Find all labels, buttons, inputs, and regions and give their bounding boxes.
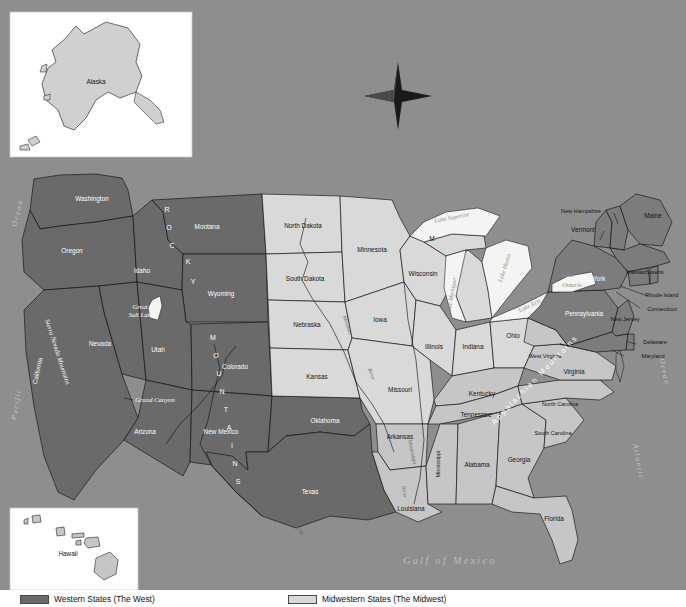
svg-text:M: M [210, 334, 216, 341]
label-arkansas: Arkansas [387, 433, 414, 440]
hawaii-lanai [76, 540, 81, 545]
legend-swatch-midwest [288, 595, 317, 604]
label-kansas: Kansas [306, 373, 327, 380]
svg-text:K: K [186, 258, 191, 265]
map-legend: Western States (The West) Midwestern Sta… [0, 590, 686, 607]
label-colorado: Colorado [222, 363, 248, 370]
label-lake-ontario-line1: Lake [561, 271, 574, 278]
svg-text:T: T [224, 406, 229, 413]
hawaii-kauai [32, 515, 41, 523]
label-oklahoma: Oklahoma [310, 417, 340, 424]
label-oregon: Oregon [61, 247, 83, 255]
svg-text:O: O [166, 224, 172, 231]
legend-item-midwest[interactable]: Midwestern States (The Midwest) [288, 594, 446, 604]
label-massachusetts: Massachusetts [626, 269, 664, 275]
label-texas: Texas [302, 488, 319, 495]
us-map: Washington Oregon California Nevada Idah… [0, 0, 686, 607]
label-nebraska: Nebraska [293, 321, 321, 328]
label-georgia: Georgia [508, 456, 531, 464]
label-alabama: Alabama [464, 461, 490, 468]
label-ohio: Ohio [506, 332, 520, 339]
label-south-dakota: South Dakota [286, 275, 325, 282]
label-louisiana: Louisiana [397, 505, 425, 512]
label-iowa: Iowa [373, 316, 387, 323]
label-wyoming: Wyoming [208, 290, 235, 298]
label-gulf-of-mexico: Gulf of Mexico [403, 555, 497, 566]
label-alaska: Alaska [86, 78, 106, 85]
state-shape-colorado[interactable] [191, 322, 272, 396]
label-great-salt-lake-line2: Salt Lake [129, 311, 154, 318]
label-great-salt-lake-line1: Great [132, 303, 147, 310]
label-delaware: Delaware [643, 339, 667, 345]
label-indiana: Indiana [463, 343, 484, 350]
label-north-dakota: North Dakota [284, 222, 322, 229]
svg-text:A: A [227, 424, 232, 431]
label-florida: Florida [544, 515, 564, 522]
legend-label-west: Western States (The West) [54, 594, 155, 604]
label-wisconsin: Wisconsin [408, 270, 438, 277]
label-south-carolina: South Carolina [534, 430, 572, 436]
legend-item-west[interactable]: Western States (The West) [20, 594, 155, 604]
label-vermont: Vermont [571, 226, 595, 233]
svg-text:N: N [232, 460, 237, 467]
legend-swatch-west [20, 595, 49, 604]
label-washington: Washington [75, 195, 109, 203]
label-north-carolina: North Carolina [542, 401, 579, 407]
label-utah: Utah [151, 346, 165, 353]
label-idaho: Idaho [134, 267, 150, 274]
map-canvas: Washington Oregon California Nevada Idah… [0, 0, 686, 590]
label-rhode-island: Rhode Island [646, 292, 679, 298]
label-virginia: Virginia [563, 368, 585, 376]
hawaii-maui [84, 537, 100, 548]
label-nevada: Nevada [89, 340, 111, 347]
label-tennessee: Tennessee [461, 411, 492, 418]
label-mississippi: Mississippi [435, 450, 441, 477]
inset-alaska[interactable]: Alaska [10, 12, 192, 157]
label-maine: Maine [644, 212, 662, 219]
label-missouri: Missouri [388, 386, 412, 393]
label-pennsylvania: Pennsylvania [565, 310, 603, 318]
label-new-jersey: New Jersey [610, 316, 639, 322]
label-kentucky: Kentucky [469, 390, 496, 398]
label-hawaii: Hawaii [58, 550, 77, 557]
legend-label-midwest: Midwestern States (The Midwest) [322, 594, 446, 604]
label-michigan: M [429, 235, 434, 242]
svg-text:I: I [231, 442, 233, 449]
label-lake-ontario-line2: Ontario [562, 281, 582, 288]
label-illinois: Illinois [425, 343, 443, 350]
label-montana: Montana [195, 223, 220, 230]
label-new-york: New York [579, 275, 607, 282]
label-connecticut: Connecticut [647, 306, 677, 312]
svg-text:Y: Y [191, 278, 196, 285]
svg-text:O: O [213, 352, 219, 359]
svg-text:S: S [236, 478, 241, 485]
hawaii-oahu [56, 527, 65, 536]
label-arizona: Arizona [134, 428, 156, 435]
svg-text:N: N [219, 388, 224, 395]
label-new-mexico: New Mexico [204, 428, 239, 435]
state-shape-wyoming[interactable] [182, 254, 268, 322]
label-grand-canyon: Grand Canyon [135, 396, 175, 403]
hawaii-molokai [72, 533, 84, 538]
label-minnesota: Minnesota [357, 246, 387, 253]
svg-text:R: R [164, 206, 169, 213]
label-new-hampshire: New Hampshire [561, 208, 601, 214]
state-shape-alabama[interactable] [456, 412, 500, 504]
svg-text:U: U [216, 370, 221, 377]
inset-hawaii[interactable]: Hawaii [10, 508, 138, 590]
svg-text:C: C [169, 242, 174, 249]
